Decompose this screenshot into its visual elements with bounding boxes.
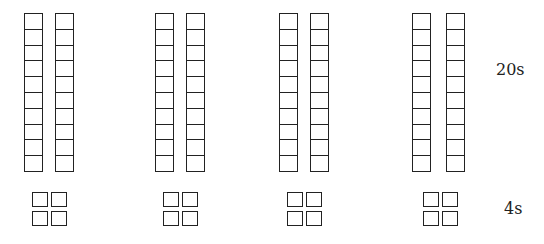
rod-cell (280, 30, 297, 46)
rod-cell (413, 125, 430, 141)
ten-rod (446, 13, 465, 172)
rod-cell (280, 109, 297, 125)
rod-cell (25, 77, 42, 93)
rod-cell (25, 93, 42, 109)
rod-cell (156, 109, 173, 125)
rod-cell (311, 14, 328, 30)
unit-cube (182, 211, 198, 226)
rod-cell (413, 77, 430, 93)
rod-cell (156, 125, 173, 141)
unit-cube (163, 211, 179, 226)
rod-cell (413, 109, 430, 125)
rod-cell (311, 140, 328, 156)
rod-cell (56, 140, 73, 156)
rod-cell (25, 156, 42, 171)
rod-cell (413, 14, 430, 30)
rod-cell (311, 125, 328, 141)
rod-cell (56, 61, 73, 77)
rod-cell (413, 93, 430, 109)
rod-cell (280, 156, 297, 171)
rod-cell (413, 140, 430, 156)
rod-cell (413, 61, 430, 77)
rod-cell (447, 30, 464, 46)
ten-rod (412, 13, 431, 172)
unit-cube (306, 192, 322, 207)
rod-cell (187, 14, 204, 30)
rod-cell (447, 93, 464, 109)
rod-cell (56, 77, 73, 93)
rod-cell (25, 125, 42, 141)
rod-cell (25, 109, 42, 125)
rod-cell (25, 30, 42, 46)
rod-cell (311, 93, 328, 109)
rod-cell (56, 14, 73, 30)
unit-cube (442, 192, 458, 207)
ten-rod (55, 13, 74, 172)
rod-cell (413, 46, 430, 62)
rod-cell (311, 46, 328, 62)
rod-cell (56, 30, 73, 46)
base-ten-blocks-diagram: 20s 4s (0, 0, 544, 244)
rod-cell (413, 156, 430, 171)
rod-cell (187, 125, 204, 141)
rod-cell (25, 46, 42, 62)
ten-rod (186, 13, 205, 172)
rod-cell (187, 93, 204, 109)
rod-cell (447, 156, 464, 171)
rod-cell (447, 109, 464, 125)
rod-cell (156, 156, 173, 171)
rod-cell (187, 46, 204, 62)
rod-cell (187, 61, 204, 77)
rod-cell (311, 30, 328, 46)
rod-cell (280, 125, 297, 141)
unit-cube (51, 192, 67, 207)
rod-cell (280, 14, 297, 30)
rod-cell (280, 46, 297, 62)
rod-cell (56, 125, 73, 141)
rod-cell (311, 77, 328, 93)
unit-cube (442, 211, 458, 226)
rod-cell (447, 14, 464, 30)
ten-rod (24, 13, 43, 172)
ten-rod (310, 13, 329, 172)
rod-cell (156, 77, 173, 93)
rod-cell (156, 93, 173, 109)
rod-cell (447, 125, 464, 141)
unit-cube (423, 211, 439, 226)
rod-cell (447, 77, 464, 93)
rod-cell (447, 140, 464, 156)
rod-cell (156, 30, 173, 46)
unit-cube (287, 192, 303, 207)
unit-cube (182, 192, 198, 207)
unit-cube (51, 211, 67, 226)
unit-cube (306, 211, 322, 226)
rod-cell (56, 93, 73, 109)
rod-cell (187, 30, 204, 46)
unit-cube (32, 211, 48, 226)
rod-cell (156, 61, 173, 77)
rod-cell (156, 14, 173, 30)
rod-cell (25, 140, 42, 156)
rod-cell (25, 61, 42, 77)
rod-cell (187, 109, 204, 125)
rod-cell (311, 156, 328, 171)
rod-cell (447, 46, 464, 62)
rod-cell (25, 14, 42, 30)
rod-cell (311, 61, 328, 77)
rod-cell (280, 77, 297, 93)
rod-cell (56, 46, 73, 62)
rod-cell (447, 61, 464, 77)
unit-cube (163, 192, 179, 207)
unit-cube (423, 192, 439, 207)
rod-cell (187, 140, 204, 156)
rod-cell (156, 46, 173, 62)
ten-rod (155, 13, 174, 172)
rod-cell (280, 93, 297, 109)
rod-cell (187, 156, 204, 171)
rod-cell (413, 30, 430, 46)
rod-cell (56, 109, 73, 125)
label-20s: 20s (496, 62, 525, 78)
rod-cell (280, 140, 297, 156)
unit-cube (32, 192, 48, 207)
unit-cube (287, 211, 303, 226)
